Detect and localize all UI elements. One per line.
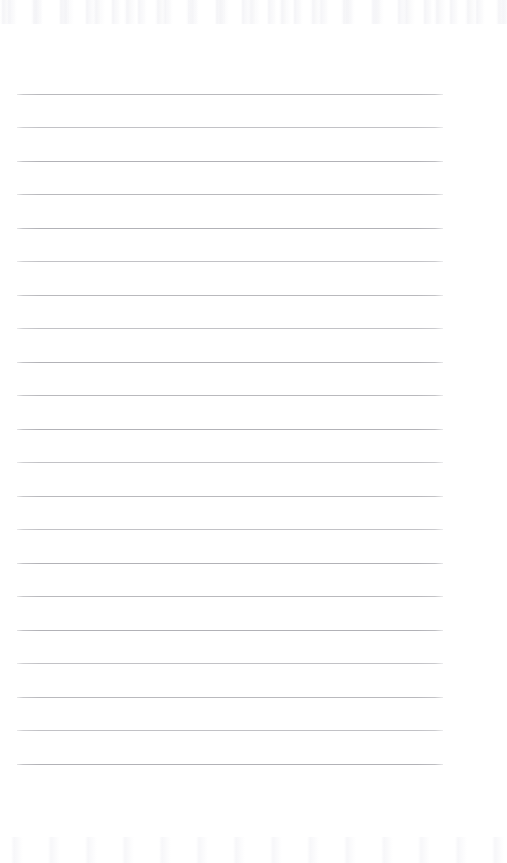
rule-line-19 <box>17 697 443 698</box>
rule-line-11 <box>17 429 443 430</box>
rule-line-17 <box>17 630 443 631</box>
ruled-writing-area <box>0 0 507 863</box>
rule-line-4 <box>17 194 443 195</box>
rule-line-12 <box>17 462 443 463</box>
rule-line-9 <box>17 362 443 363</box>
rule-line-6 <box>17 261 443 262</box>
rule-line-5 <box>17 228 443 229</box>
rule-line-1 <box>17 94 443 95</box>
rule-line-14 <box>17 529 443 530</box>
rule-line-13 <box>17 496 443 497</box>
rule-line-2 <box>17 127 443 128</box>
scanned-page <box>0 0 507 863</box>
rule-line-20 <box>17 730 443 731</box>
rule-line-8 <box>17 328 443 329</box>
rule-line-21 <box>17 764 443 765</box>
rule-line-3 <box>17 161 443 162</box>
rule-line-15 <box>17 563 443 564</box>
rule-line-10 <box>17 395 443 396</box>
rule-line-7 <box>17 295 443 296</box>
rule-line-18 <box>17 663 443 664</box>
rule-line-16 <box>17 596 443 597</box>
